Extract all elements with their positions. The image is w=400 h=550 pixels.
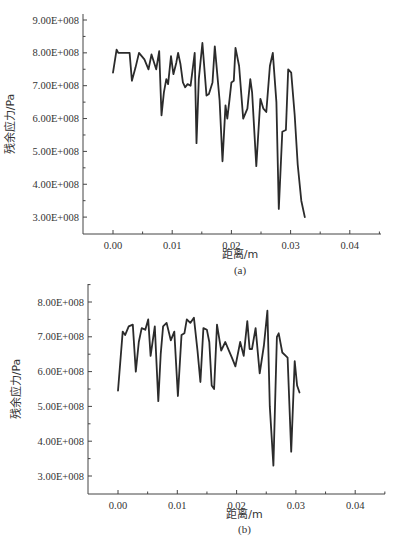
y-tick-label: 4.00E+008	[33, 179, 79, 190]
chart-b: 3.00E+0084.00E+0085.00E+0086.00E+0087.00…	[0, 280, 400, 550]
x-tick-label: 0.03	[281, 240, 299, 251]
x-tick-label: 0.00	[104, 240, 122, 251]
panel-label: (a)	[234, 264, 247, 277]
y-tick-label: 8.00E+008	[33, 47, 79, 58]
chart-a: 3.00E+0084.00E+0085.00E+0086.00E+0087.00…	[0, 0, 400, 280]
x-axis-title: 距离/m	[226, 507, 262, 521]
x-tick-label: 0.04	[341, 240, 360, 251]
chart-a-plot: 3.00E+0084.00E+0085.00E+0086.00E+0087.00…	[0, 0, 400, 280]
y-tick-label: 7.00E+008	[33, 80, 79, 91]
y-axis-title: 残余应力/Pa	[9, 359, 23, 420]
y-axis-title: 残余应力/Pa	[3, 94, 17, 155]
y-tick-label: 7.00E+008	[38, 331, 84, 342]
x-tick-label: 0.03	[287, 500, 305, 511]
data-series-line	[113, 43, 305, 217]
y-tick-label: 9.00E+008	[33, 15, 79, 26]
panel-label: (b)	[238, 523, 251, 536]
y-tick-label: 6.00E+008	[33, 113, 79, 124]
y-tick-label: 5.00E+008	[38, 401, 84, 412]
y-tick-label: 6.00E+008	[38, 366, 84, 377]
y-tick-label: 3.00E+008	[33, 212, 79, 223]
y-tick-label: 4.00E+008	[38, 436, 84, 447]
chart-b-plot: 3.00E+0084.00E+0085.00E+0086.00E+0087.00…	[0, 280, 400, 550]
y-tick-label: 3.00E+008	[38, 471, 84, 482]
y-tick-label: 8.00E+008	[38, 297, 84, 308]
x-axis-title: 距离/m	[222, 247, 258, 261]
x-tick-label: 0.04	[346, 500, 365, 511]
x-tick-label: 0.00	[109, 500, 127, 511]
y-tick-label: 5.00E+008	[33, 146, 79, 157]
data-series-line	[118, 311, 300, 466]
x-tick-label: 0.01	[163, 240, 181, 251]
x-tick-label: 0.01	[168, 500, 186, 511]
